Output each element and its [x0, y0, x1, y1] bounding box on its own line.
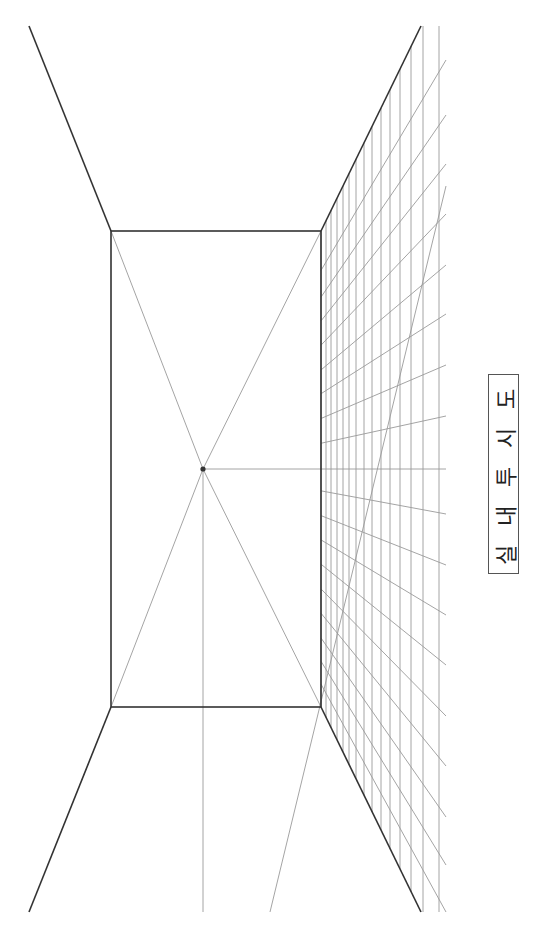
long-diagonal-guide: [270, 186, 446, 912]
grid-ray-line: [321, 613, 446, 766]
grid-ray-line: [321, 115, 446, 297]
grid-ray-line: [321, 491, 446, 514]
floor-left-edge: [29, 707, 111, 912]
ceiling-left-edge: [29, 26, 111, 231]
diagonal-bottom-right: [203, 469, 321, 707]
interior-perspective-drawing: [0, 0, 542, 941]
grid-ray-line: [321, 684, 446, 912]
grid-ray-line: [321, 416, 446, 443]
grid-ray-line: [321, 540, 446, 615]
wall-grid-rays: [203, 60, 446, 912]
grid-ray-line: [321, 638, 446, 817]
drawing-title: 실 내 투 시 도: [488, 383, 520, 565]
perspective-guides: [111, 186, 446, 912]
floor-right-edge: [321, 707, 421, 912]
grid-ray-line: [321, 516, 446, 565]
vanishing-point: [200, 466, 205, 471]
grid-ray-line: [321, 60, 446, 270]
title-box: 실 내 투 시 도: [488, 374, 519, 574]
diagonal-top-left: [111, 231, 203, 469]
diagonal-bottom-left: [111, 469, 203, 707]
grid-ray-line: [321, 589, 446, 716]
ceiling-right-edge: [321, 26, 421, 231]
grid-ray-line: [321, 564, 446, 665]
diagonal-top-right: [203, 231, 321, 469]
grid-ray-line: [321, 164, 446, 321]
grid-ray-line: [321, 365, 446, 418]
